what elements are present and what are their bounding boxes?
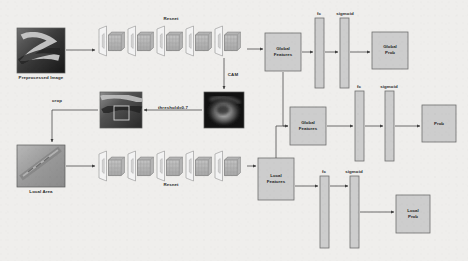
gfm-line1: Global	[299, 120, 317, 126]
threshold-label: threshold=0.7	[158, 105, 188, 111]
gft-line1: Global	[274, 46, 292, 52]
fc-mid-label: fc	[357, 84, 361, 90]
sigmoid-top-box	[340, 18, 349, 88]
fc-bottom-label: fc	[322, 169, 326, 175]
local-prob-label: Local Prob	[407, 208, 418, 219]
lf-line2: Features	[267, 179, 285, 185]
resnet-top-label: Resnet	[163, 16, 178, 22]
crop-label: crop	[52, 98, 62, 104]
fc-bottom-box	[320, 176, 329, 248]
sigmoid-bottom-label: sigmoid	[345, 169, 363, 175]
preprocessed-image	[17, 28, 65, 73]
preprocessed-image-label: Preprocessed Image	[19, 75, 64, 81]
fc-top-label: fc	[317, 11, 321, 17]
lp-line2: Prob	[407, 214, 418, 220]
global-prob-label: Global Prob	[383, 44, 397, 55]
local-area-image	[17, 145, 65, 187]
cam-image	[204, 92, 244, 128]
gp-line2: Prob	[383, 50, 397, 56]
fc-top-box	[315, 18, 324, 88]
lp-line1: Local	[407, 208, 418, 214]
global-features-mid-label: Global Features	[299, 120, 317, 131]
local-features-label: Local Features	[267, 173, 285, 184]
architecture-diagram	[0, 0, 468, 261]
local-area-label: Local Area	[29, 189, 52, 195]
gp-line1: Global	[383, 44, 397, 50]
global-features-top-label: Global Features	[274, 46, 292, 57]
resnet-bottom-label: Resnet	[163, 182, 178, 188]
sigmoid-mid-box	[385, 91, 394, 161]
cropped-image	[100, 92, 142, 128]
sigmoid-top-label: sigmoid	[336, 11, 354, 17]
prob-label: Prob	[434, 121, 444, 127]
sigmoid-bottom-box	[350, 176, 359, 248]
fc-mid-box	[355, 91, 364, 161]
cam-label: CAM	[228, 72, 238, 78]
sigmoid-mid-label: sigmoid	[380, 84, 398, 90]
gft-line2: Features	[274, 52, 292, 58]
gfm-line2: Features	[299, 126, 317, 132]
